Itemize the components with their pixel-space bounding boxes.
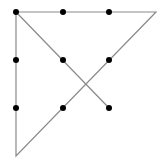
solution-polyline	[16, 12, 156, 156]
dot-r0-c0	[13, 9, 19, 15]
dot-r2-c1	[60, 105, 66, 111]
nine-dot-diagram	[0, 0, 164, 164]
dot-r2-c0	[13, 105, 19, 111]
dot-r1-c0	[13, 57, 19, 63]
dot-r2-c2	[106, 105, 112, 111]
dot-r1-c1	[60, 57, 66, 63]
dot-r0-c2	[106, 9, 112, 15]
dot-r0-c1	[60, 9, 66, 15]
dot-r1-c2	[106, 57, 112, 63]
solution-path	[16, 12, 156, 156]
